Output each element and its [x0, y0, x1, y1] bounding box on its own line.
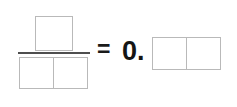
decimal-blank-box-2[interactable] [186, 37, 221, 70]
numerator-blank-box[interactable] [35, 16, 73, 51]
math-expression: = 0. [0, 0, 237, 107]
denominator-blank-box-1[interactable] [19, 57, 54, 89]
fraction-denominator [19, 57, 88, 89]
decimal-blank-box-1[interactable] [152, 37, 187, 70]
fraction-numerator [18, 16, 90, 53]
equals-sign: = [97, 41, 116, 58]
fraction [18, 16, 90, 92]
decimal-blank-group [152, 37, 221, 70]
fraction-bar [18, 52, 90, 54]
denominator-blank-box-2[interactable] [53, 57, 88, 89]
decimal-prefix-label: 0. [122, 34, 145, 68]
